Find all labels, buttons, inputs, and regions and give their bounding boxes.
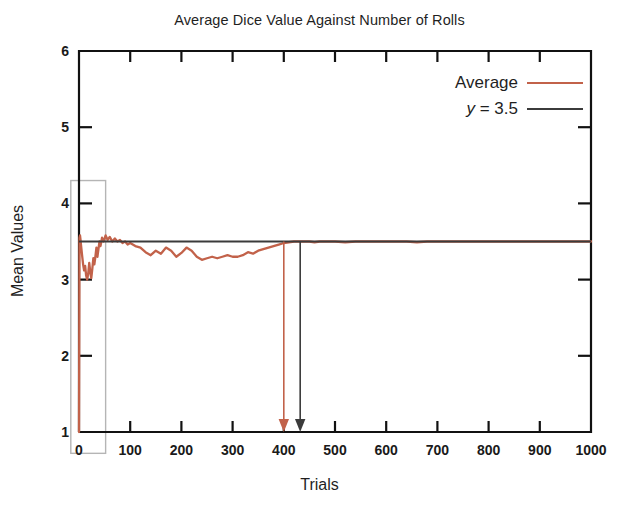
y-tick-label: 6	[27, 43, 69, 59]
series-line-average	[79, 235, 591, 432]
y-tick-label: 3	[27, 272, 69, 288]
x-tick-label: 400	[272, 442, 295, 458]
x-tick-label: 800	[477, 442, 500, 458]
y-tick-label: 1	[27, 424, 69, 440]
x-tick-label: 100	[119, 442, 142, 458]
x-tick-label: 700	[426, 442, 449, 458]
early-trials-highlight	[71, 181, 106, 454]
x-tick-label: 200	[170, 442, 193, 458]
x-tick-label: 500	[323, 442, 346, 458]
legend-item-reference: y = 3.5	[466, 99, 583, 119]
x-tick-label: 0	[75, 442, 83, 458]
x-tick-label: 900	[528, 442, 551, 458]
x-tick-label: 600	[375, 442, 398, 458]
reference-arrow-head	[295, 419, 305, 432]
y-axis-title: Mean Values	[9, 171, 27, 331]
dice-average-chart: Average Dice Value Against Number of Rol…	[0, 0, 639, 515]
legend-swatch-average	[527, 82, 583, 84]
legend-label-reference-variable: y	[466, 99, 475, 118]
x-tick-label: 300	[221, 442, 244, 458]
average-arrow-head	[279, 419, 289, 432]
y-tick-label: 2	[27, 348, 69, 364]
y-tick-label: 4	[27, 195, 69, 211]
legend-item-average: Average	[455, 73, 583, 93]
legend-label-reference-value: = 3.5	[475, 99, 518, 118]
legend-swatch-reference	[527, 108, 583, 110]
legend-label-average: Average	[455, 73, 518, 93]
legend-label-reference: y = 3.5	[466, 99, 518, 119]
data-series-layer	[79, 235, 591, 432]
annotation-arrows-layer	[279, 242, 306, 433]
highlight-box-layer	[71, 181, 106, 454]
y-tick-label: 5	[27, 119, 69, 135]
x-axis-title: Trials	[0, 476, 639, 494]
x-tick-label: 1000	[575, 442, 606, 458]
